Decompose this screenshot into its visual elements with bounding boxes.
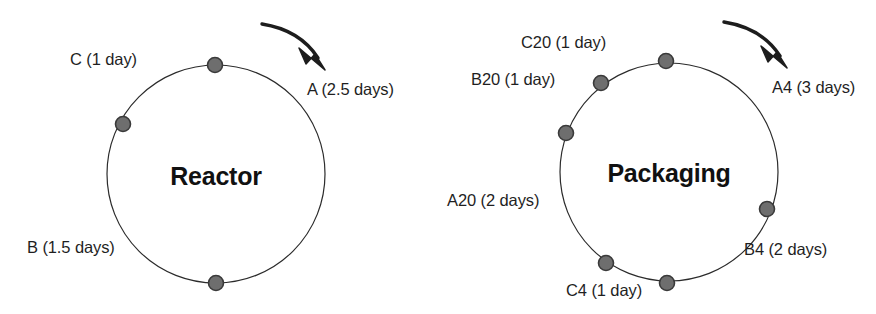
node-label-packaging-c20: C20 (1 day) [521, 33, 606, 51]
node-label-reactor-a: A (2.5 days) [307, 80, 394, 98]
cycle-node-packaging-b4[interactable] [760, 202, 775, 217]
cycle-node-packaging-a4[interactable] [660, 276, 675, 291]
node-dot-icon[interactable] [208, 58, 223, 73]
node-dot-icon[interactable] [209, 276, 224, 291]
node-label-packaging-c4: C4 (1 day) [566, 281, 642, 299]
cycle-node-packaging-c4[interactable] [599, 256, 614, 271]
node-label-packaging-b20: B20 (1 day) [471, 70, 555, 88]
diagram-vector-layer [0, 0, 876, 314]
node-dot-icon[interactable] [760, 202, 775, 217]
cycle-node-reactor-a[interactable] [209, 276, 224, 291]
node-dot-icon[interactable] [116, 117, 131, 132]
node-dot-icon[interactable] [659, 54, 674, 69]
cycle-diagram-figure: C (1 day)B (1.5 days)A (2.5 days)Reactor… [0, 0, 876, 314]
node-dot-icon[interactable] [599, 256, 614, 271]
node-label-reactor-c: C (1 day) [70, 50, 137, 68]
node-label-packaging-b4: B4 (2 days) [744, 240, 827, 258]
cycle-node-packaging-c20[interactable] [659, 54, 674, 69]
node-label-packaging-a4: A4 (3 days) [772, 78, 855, 96]
cycle-node-reactor-c[interactable] [208, 58, 223, 73]
node-dot-icon[interactable] [559, 126, 574, 141]
cycle-title-reactor: Reactor [170, 163, 262, 189]
rotation-arrow-shaft-reactor [262, 24, 318, 58]
node-label-packaging-a20: A20 (2 days) [447, 191, 539, 209]
cycle-node-packaging-b20[interactable] [594, 76, 609, 91]
node-label-reactor-b: B (1.5 days) [27, 238, 115, 256]
cycle-node-packaging-a20[interactable] [559, 126, 574, 141]
rotation-arrow-shaft-packaging [724, 22, 780, 56]
cycle-title-packaging: Packaging [607, 160, 730, 186]
node-dot-icon[interactable] [594, 76, 609, 91]
node-dot-icon[interactable] [660, 276, 675, 291]
cycle-node-reactor-b[interactable] [116, 117, 131, 132]
